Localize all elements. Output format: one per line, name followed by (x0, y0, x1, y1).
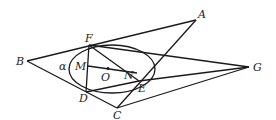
point-O-dot (107, 67, 110, 70)
label-D: D (78, 92, 88, 105)
segment-FD (86, 45, 89, 92)
label-A: A (197, 8, 206, 21)
segment-AC (117, 20, 196, 108)
label-N: N (123, 69, 134, 82)
segment-FG (89, 45, 249, 67)
label-E: E (137, 82, 146, 95)
label-B: B (15, 55, 24, 68)
segment-BA (27, 20, 196, 61)
label-M: M (74, 60, 87, 73)
label-F: F (84, 32, 93, 45)
geometry-diagram: A B C D E F G M N O α (0, 0, 276, 120)
label-O: O (101, 71, 110, 84)
label-alpha: α (59, 60, 67, 73)
label-C: C (113, 109, 122, 120)
label-G: G (253, 61, 262, 74)
